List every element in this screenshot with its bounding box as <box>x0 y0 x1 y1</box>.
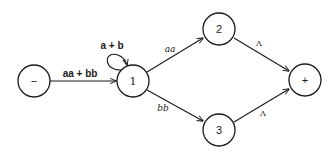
state-start-label: − <box>31 75 37 87</box>
state-start: − <box>18 65 50 97</box>
edge-label-start-to-1: aa + bb <box>63 68 98 79</box>
edge-label-1-to-3: bb <box>157 103 169 113</box>
state-2-label: 2 <box>216 23 222 35</box>
transition-diagram: aa + bb a + b aa bb Λ Λ − 1 2 3 + <box>0 0 336 155</box>
edge-label-1-to-2: aa <box>165 44 176 54</box>
edge-label-2-to-final: Λ <box>255 39 262 48</box>
state-2: 2 <box>203 13 235 45</box>
state-final-label: + <box>302 74 308 86</box>
state-1: 1 <box>117 65 149 97</box>
edge-1-to-3: bb <box>147 90 203 121</box>
edge-label-3-to-final: Λ <box>259 109 266 118</box>
state-final: + <box>289 64 321 96</box>
edge-start-to-1: aa + bb <box>50 68 116 81</box>
state-1-label: 1 <box>130 75 137 88</box>
edge-label-1-loop: a + b <box>100 40 123 51</box>
state-3-label: 3 <box>216 124 222 136</box>
edge-2-to-final: Λ <box>234 38 289 71</box>
edge-1-to-2: aa <box>147 38 203 72</box>
edge-1-self-loop: a + b <box>100 40 127 70</box>
edge-3-to-final: Λ <box>234 89 289 122</box>
state-3: 3 <box>203 114 235 146</box>
